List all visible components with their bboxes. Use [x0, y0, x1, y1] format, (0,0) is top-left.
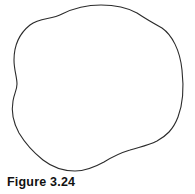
- blob-shape-illustration: [0, 0, 195, 194]
- figure-caption: Figure 3.24: [7, 175, 75, 190]
- closed-curve-outline: [12, 5, 183, 171]
- figure-panel: Figure 3.24: [0, 0, 195, 194]
